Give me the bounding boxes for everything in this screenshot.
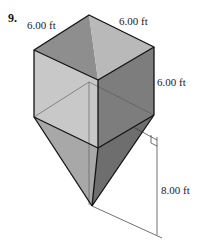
cube-pyramid-diagram [0, 0, 200, 247]
